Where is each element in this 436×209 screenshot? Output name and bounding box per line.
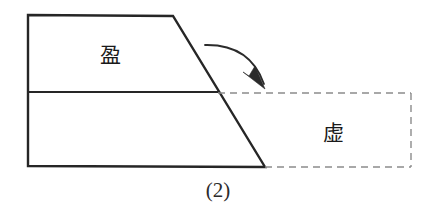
ying-region-label: 盈 — [100, 43, 121, 67]
xu-region-label: 虚 — [323, 121, 344, 145]
figure-container: 盈 虚 (2) — [0, 0, 436, 209]
geometry-figure: 盈 虚 (2) — [0, 0, 436, 209]
figure-caption: (2) — [206, 178, 231, 202]
